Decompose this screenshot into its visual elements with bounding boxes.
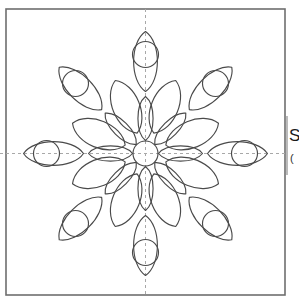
side-label-text: Sp (289, 126, 299, 145)
middle-petal-ring-petal (166, 157, 219, 189)
middle-petal-ring-petal (149, 174, 181, 227)
inner-petal-ring-petal (155, 163, 186, 194)
accent-circle (63, 71, 89, 97)
accent-circle (203, 211, 229, 237)
inner-petal-ring-petal (105, 113, 136, 144)
stencil-pattern-screenshot: Sp ( (0, 0, 299, 307)
accent-circle (203, 71, 229, 97)
middle-petal-ring-petal (73, 118, 126, 150)
middle-petal-ring-petal (73, 157, 126, 189)
inner-petal-ring-petal (105, 163, 136, 194)
middle-petal-ring-petal (149, 81, 181, 134)
pattern-canvas (0, 0, 299, 307)
registration-guides (0, 9, 287, 295)
side-subtext: ( (290, 152, 294, 165)
outer-petal-ring-petal (59, 67, 102, 110)
outer-petal-ring-petal (189, 67, 232, 110)
outer-petal-ring-petal (189, 197, 232, 240)
middle-petal-ring-petal (166, 118, 219, 150)
inner-petal-ring-petal (155, 113, 186, 144)
outer-petal-ring-petal (59, 197, 102, 240)
accent-circle (63, 211, 89, 237)
middle-petal-ring-petal (110, 174, 142, 227)
middle-petal-ring-petal (110, 81, 142, 134)
